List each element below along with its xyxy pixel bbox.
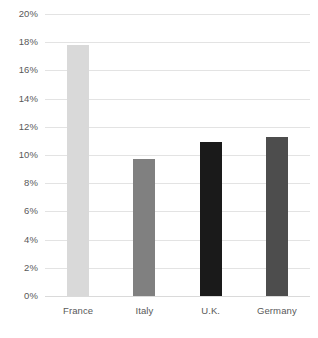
plot-area xyxy=(45,14,310,296)
y-axis-tick-label: 18% xyxy=(0,37,38,47)
bar xyxy=(266,137,288,296)
y-axis-tick-label: 12% xyxy=(0,122,38,132)
x-axis-tick-label: U.K. xyxy=(201,306,220,316)
y-axis-tick-label: 8% xyxy=(0,178,38,188)
bar-chart: 0%2%4%6%8%10%12%14%16%18%20% FranceItaly… xyxy=(0,0,318,338)
x-axis-tick-label: Italy xyxy=(135,306,153,316)
bar xyxy=(67,45,89,296)
y-axis-tick-label: 20% xyxy=(0,9,38,19)
y-axis-tick-label: 0% xyxy=(0,291,38,301)
y-axis-tick-label: 16% xyxy=(0,66,38,76)
y-axis-tick-label: 10% xyxy=(0,150,38,160)
y-axis-tick-label: 4% xyxy=(0,235,38,245)
bar xyxy=(133,159,155,296)
y-axis-tick-label: 14% xyxy=(0,94,38,104)
y-axis-tick-label: 2% xyxy=(0,263,38,273)
gridline xyxy=(45,296,310,297)
bar xyxy=(200,142,222,296)
y-axis-tick-label: 6% xyxy=(0,207,38,217)
x-axis-tick-label: Germany xyxy=(257,306,297,316)
bars xyxy=(45,14,310,296)
x-axis-tick-label: France xyxy=(63,306,93,316)
